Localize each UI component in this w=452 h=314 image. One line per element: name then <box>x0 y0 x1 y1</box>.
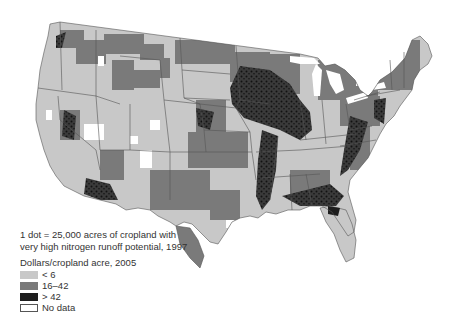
legend-label-no-data: No data <box>42 302 75 314</box>
legend-swatch-no-data <box>20 304 38 312</box>
dot-density-note: 1 dot = 25,000 acres of cropland with ve… <box>20 229 220 253</box>
dot-note-line-2: very high nitrogen runoff potential, 199… <box>20 241 220 253</box>
map-legend: 1 dot = 25,000 acres of cropland with ve… <box>20 229 220 314</box>
legend-title: Dollars/cropland acre, 2005 <box>20 257 220 269</box>
dot-note-line-1: 1 dot = 25,000 acres of cropland with <box>20 229 220 241</box>
legend-swatch-high <box>20 293 38 301</box>
legend-item-high: > 42 <box>20 292 220 302</box>
legend-swatch-low <box>20 271 38 279</box>
legend-item-low: < 6 <box>20 270 220 280</box>
legend-item-no-data: No data <box>20 303 220 313</box>
legend-item-mid: 16–42 <box>20 281 220 291</box>
legend-swatch-mid <box>20 282 38 290</box>
